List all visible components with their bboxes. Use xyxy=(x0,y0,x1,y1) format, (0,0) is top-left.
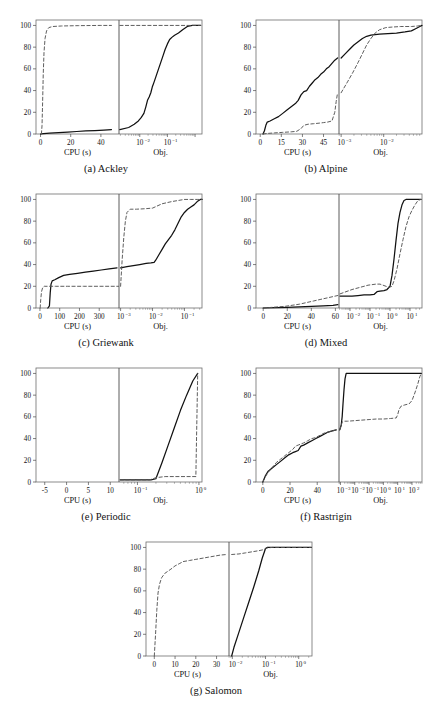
svg-text:10: 10 xyxy=(229,661,237,669)
y-tick-label: 80 xyxy=(134,566,142,574)
x-tick-label-right: 100 xyxy=(295,660,306,669)
x-axis-label-obj: Obj. xyxy=(263,670,278,679)
svg-text:10: 10 xyxy=(366,313,374,321)
solid-series xyxy=(41,130,112,134)
solid-series xyxy=(340,373,422,429)
panel-d: 020406080100020406010−210−1100101CPU (s)… xyxy=(226,188,426,353)
svg-text:10: 10 xyxy=(394,487,402,495)
y-tick-label: 100 xyxy=(240,196,251,204)
y-tick-label: 80 xyxy=(24,44,32,52)
x-tick-label-left: 0 xyxy=(65,487,69,495)
y-tick-label: 40 xyxy=(244,435,252,443)
dashed-series xyxy=(121,199,202,286)
x-tick-label-right: 10−2 xyxy=(351,486,365,495)
y-tick-label: 0 xyxy=(27,131,31,139)
svg-text:10: 10 xyxy=(134,487,142,495)
y-tick-label: 80 xyxy=(244,392,252,400)
dashed-series xyxy=(154,554,227,656)
x-tick-label-right: 10−1 xyxy=(164,138,178,147)
plot-area-c: 020406080100010020030010−310−210−1CPU (s… xyxy=(6,188,206,342)
plot-area-e: 020406080100-5051010−1100CPU (s)Obj. xyxy=(6,362,206,516)
svg-text:−1: −1 xyxy=(375,312,381,317)
svg-text:10: 10 xyxy=(351,487,359,495)
svg-text:0: 0 xyxy=(304,660,307,665)
solid-series xyxy=(340,199,421,296)
svg-text:10: 10 xyxy=(136,139,144,147)
panel-g: 020406080100010203010−210−1100CPU (s)Obj… xyxy=(116,536,316,701)
plot-area-b: 020406080100015304510−310−2CPU (s)Obj. xyxy=(226,14,426,168)
x-tick-label-left: 10 xyxy=(171,661,179,669)
x-axis-label-cpu: CPU (s) xyxy=(64,496,91,505)
plot-area-f: 0204060801000204010−310−210−1100101102CP… xyxy=(226,362,426,516)
svg-text:0: 0 xyxy=(388,486,391,491)
x-tick-label-left: 0 xyxy=(261,487,265,495)
solid-series xyxy=(232,547,312,656)
panel-caption-c: (c) Griewank xyxy=(6,337,206,348)
y-tick-label: 80 xyxy=(244,44,252,52)
svg-text:−3: −3 xyxy=(346,138,352,143)
x-tick-label-left: 0 xyxy=(261,313,265,321)
x-tick-label-right: 10−2 xyxy=(380,138,394,147)
dashed-series xyxy=(340,199,421,293)
x-tick-label-left: 20 xyxy=(67,139,75,147)
x-tick-label-left: 20 xyxy=(286,487,294,495)
y-tick-label: 100 xyxy=(20,22,31,30)
panel-caption-f: (f) Rastrigin xyxy=(226,511,426,522)
y-tick-label: 40 xyxy=(244,261,252,269)
x-tick-label-left: 0 xyxy=(38,313,42,321)
x-tick-label-right: 101 xyxy=(406,312,417,321)
x-tick-label-right: 10−3 xyxy=(337,486,351,495)
x-tick-label-left: 5 xyxy=(87,487,91,495)
panel-b: 020406080100015304510−310−2CPU (s)Obj. xyxy=(226,14,426,179)
y-tick-label: 20 xyxy=(244,457,252,465)
svg-text:0: 0 xyxy=(395,312,398,317)
panel-caption-g: (g) Salomon xyxy=(116,685,316,696)
y-tick-label: 100 xyxy=(130,544,141,552)
x-tick-label-left: 0 xyxy=(153,661,157,669)
svg-text:10: 10 xyxy=(386,313,394,321)
svg-text:10: 10 xyxy=(295,661,303,669)
plot-area-a: 0204060801000204010−210−1CPU (s)Obj. xyxy=(6,14,206,168)
x-axis-label-obj: Obj. xyxy=(373,322,388,331)
y-tick-label: 100 xyxy=(240,22,251,30)
svg-text:10: 10 xyxy=(406,313,414,321)
x-tick-label-left: -5 xyxy=(42,487,48,495)
dashed-series xyxy=(341,25,422,92)
x-axis-label-obj: Obj. xyxy=(373,496,388,505)
plot-area-d: 020406080100020406010−210−1100101CPU (s)… xyxy=(226,188,426,342)
y-tick-label: 60 xyxy=(244,239,252,247)
panel-f: 0204060801000204010−310−210−1100101102CP… xyxy=(226,362,426,527)
svg-text:10: 10 xyxy=(365,487,373,495)
y-tick-label: 80 xyxy=(24,218,32,226)
panel-caption-e: (e) Periodic xyxy=(6,511,206,522)
x-tick-label-left: 300 xyxy=(94,313,105,321)
y-tick-label: 40 xyxy=(24,87,32,95)
svg-text:10: 10 xyxy=(380,487,388,495)
y-tick-label: 60 xyxy=(24,239,32,247)
svg-text:0: 0 xyxy=(204,486,207,491)
svg-text:10: 10 xyxy=(337,487,345,495)
x-axis-label-cpu: CPU (s) xyxy=(64,148,91,157)
x-tick-label-left: 200 xyxy=(74,313,85,321)
svg-text:2: 2 xyxy=(417,486,420,491)
panel-caption-d: (d) Mixed xyxy=(226,337,426,348)
dashed-series xyxy=(263,93,338,134)
svg-text:10: 10 xyxy=(380,139,388,147)
x-tick-label-left: 10 xyxy=(107,487,115,495)
dashed-series xyxy=(41,25,111,134)
x-tick-label-left: 45 xyxy=(320,139,328,147)
x-axis-label-cpu: CPU (s) xyxy=(174,670,201,679)
x-tick-label-right: 100 xyxy=(380,486,391,495)
panel-caption-b: (b) Alpine xyxy=(226,163,426,174)
svg-text:10: 10 xyxy=(338,139,346,147)
panel-caption-a: (a) Ackley xyxy=(6,163,206,174)
svg-text:10: 10 xyxy=(164,139,172,147)
svg-text:−2: −2 xyxy=(145,138,151,143)
svg-text:1: 1 xyxy=(415,312,418,317)
y-tick-label: 20 xyxy=(134,631,142,639)
x-tick-label-right: 10−2 xyxy=(136,138,150,147)
x-axis-label-cpu: CPU (s) xyxy=(64,322,91,331)
y-tick-label: 0 xyxy=(27,479,31,487)
svg-text:−1: −1 xyxy=(172,138,178,143)
x-tick-label-left: 0 xyxy=(39,139,43,147)
